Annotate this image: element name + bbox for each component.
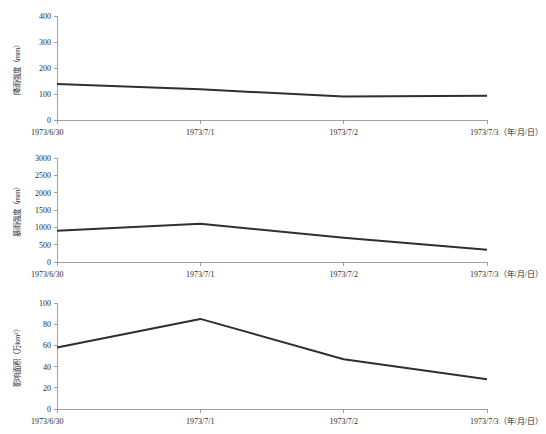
y-tick-label: 3000 (35, 154, 51, 163)
x-tick-label: 1973/7/1 (186, 270, 214, 279)
y-tick-label: 0 (47, 405, 51, 414)
x-tick-label: 1973/7/3（年/月/日） (470, 416, 543, 426)
x-tick-label: 1973/7/1 (186, 128, 214, 137)
chart-panel-storm-intensity: 0500100015002000250030001973/6/301973/7/… (0, 145, 546, 287)
y-tick-label: 300 (39, 38, 51, 47)
x-tick-label: 1973/6/30 (31, 270, 63, 279)
y-axis-title-rainfall-intensity: 降雨强度（mm） (12, 41, 22, 96)
x-tick-label: 1973/7/2 (329, 128, 357, 137)
y-tick-label: 100 (39, 299, 51, 308)
y-axis-title-affected-area: 影响面积（万km²） (12, 325, 22, 387)
y-tick-label: 200 (39, 64, 51, 73)
x-tick-label: 1973/6/30 (31, 417, 63, 426)
chart-storm-intensity: 0500100015002000250030001973/6/301973/7/… (0, 145, 546, 287)
x-tick-label: 1973/7/3（年/月/日） (470, 269, 543, 279)
y-tick-label: 0 (47, 258, 51, 267)
chart-affected-area: 0204060801001973/6/301973/7/11973/7/2197… (0, 287, 546, 434)
x-tick-label: 1973/7/1 (186, 417, 214, 426)
y-tick-label: 2000 (35, 189, 51, 198)
y-tick-label: 80 (43, 320, 51, 329)
chart-panel-affected-area: 0204060801001973/6/301973/7/11973/7/2197… (0, 287, 546, 434)
y-tick-label: 1500 (35, 206, 51, 215)
data-series-line-storm-intensity (57, 224, 487, 250)
y-tick-label: 60 (43, 341, 51, 350)
x-tick-label: 1973/7/2 (329, 270, 357, 279)
x-tick-label: 1973/6/30 (31, 128, 63, 137)
y-tick-label: 40 (43, 363, 51, 372)
chart-panel-rainfall-intensity: 01002003004001973/6/301973/7/11973/7/219… (0, 0, 546, 145)
three-panel-line-chart-figure: 01002003004001973/6/301973/7/11973/7/219… (0, 0, 546, 434)
y-tick-label: 20 (43, 384, 51, 393)
y-tick-label: 1000 (35, 223, 51, 232)
y-tick-label: 100 (39, 90, 51, 99)
x-tick-label: 1973/7/3（年/月/日） (470, 127, 543, 137)
data-series-line-rainfall-intensity (57, 84, 487, 96)
y-tick-label: 0 (47, 116, 51, 125)
data-series-line-affected-area (57, 319, 487, 379)
y-tick-label: 500 (39, 241, 51, 250)
y-axis-title-storm-intensity: 暴雨强度（mm） (12, 183, 22, 238)
chart-rainfall-intensity: 01002003004001973/6/301973/7/11973/7/219… (0, 0, 546, 145)
x-tick-label: 1973/7/2 (329, 417, 357, 426)
y-tick-label: 2500 (35, 171, 51, 180)
y-tick-label: 400 (39, 12, 51, 21)
